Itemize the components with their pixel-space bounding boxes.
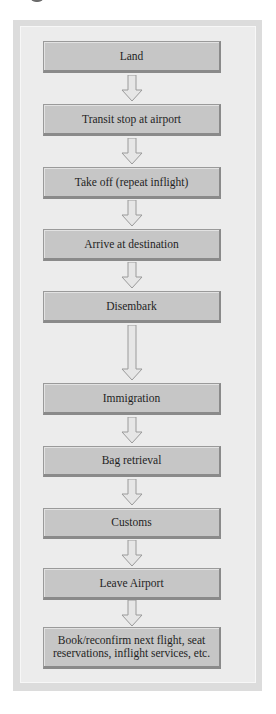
down-arrow-icon (121, 75, 143, 102)
down-arrow-icon (121, 200, 143, 227)
down-arrow-icon (121, 540, 143, 567)
step-take-off: Take off (repeat inflight) (43, 167, 221, 199)
step-book-reconfirm: Book/reconfirm next flight, seat reserva… (43, 627, 221, 669)
step-land: Land (43, 41, 221, 73)
step-immigration: Immigration (43, 383, 221, 415)
long-down-arrow-icon (121, 325, 143, 381)
step-customs: Customs (43, 508, 221, 539)
cropped-heading-fragment (30, 0, 44, 2)
down-arrow-icon (121, 138, 143, 165)
step-disembark: Disembark (43, 291, 221, 323)
down-arrow-icon (121, 600, 143, 627)
step-transit-stop: Transit stop at airport (43, 104, 221, 136)
down-arrow-icon (121, 417, 143, 444)
down-arrow-icon (121, 262, 143, 289)
step-bag-retrieval: Bag retrieval (43, 446, 221, 477)
step-arrive-destination: Arrive at destination (43, 229, 221, 261)
step-leave-airport: Leave Airport (43, 568, 221, 600)
down-arrow-icon (121, 479, 143, 506)
